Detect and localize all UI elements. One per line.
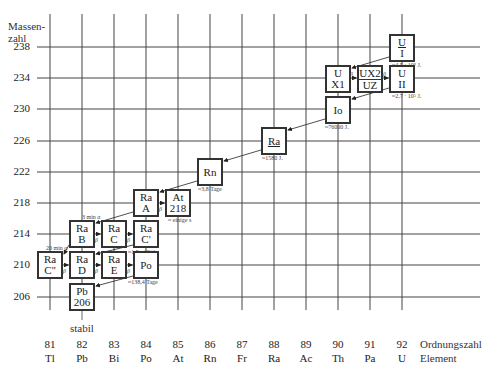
beta-symbol: β	[63, 268, 66, 274]
nuclide-uranium-x1: UX1	[325, 65, 351, 93]
beta-symbol: β	[159, 206, 162, 212]
nuclide-lead-206: Pb206	[69, 283, 95, 311]
y-tick: 234	[0, 71, 30, 83]
x-tick: 86Rn	[198, 337, 222, 365]
nuclide-radium-c-prime: RaC'	[133, 220, 159, 248]
y-tick: 230	[0, 102, 30, 114]
x-tick: 91Pa	[358, 337, 382, 365]
beta-symbol: β	[127, 268, 130, 274]
nuclide-radium-c: RaC	[101, 220, 127, 248]
x-tick: 88Ra	[262, 337, 286, 365]
nuclide-ionium: Io	[325, 96, 351, 124]
beta-symbol: β	[95, 268, 98, 274]
nuclide-astatine-218: At218	[165, 189, 191, 217]
y-tick: 214	[0, 227, 30, 239]
beta-symbol: β	[95, 237, 98, 243]
x-tick: 81Tl	[38, 337, 62, 365]
nuclide-polonium: Po	[133, 251, 159, 279]
half-life-label: ≈ einige s	[168, 217, 191, 223]
x-tick: 85At	[166, 337, 190, 365]
nuclide-uranium-ii: UII	[389, 65, 415, 93]
y-tick: 206	[0, 290, 30, 302]
nuclide-radium-e: RaE	[101, 251, 127, 279]
y-tick: 210	[0, 258, 30, 270]
y-axis-title-1: Massen-	[8, 20, 45, 32]
x-tick: 82Pb	[70, 337, 94, 365]
beta-symbol: β	[350, 71, 353, 77]
x-tick: 84Po	[134, 337, 158, 365]
beta-symbol: β	[127, 237, 130, 243]
x-tick: 89Ac	[294, 337, 318, 365]
y-tick: 226	[0, 134, 30, 146]
nuclide-radium: Ra	[261, 127, 287, 155]
y-tick: 238	[0, 40, 30, 52]
nuclide-radium-b: RaB	[69, 220, 95, 248]
beta-symbol: β	[383, 71, 386, 77]
half-life-label: ≈1580 J.	[262, 155, 283, 161]
x-axis-title-2: Element	[420, 352, 457, 364]
y-tick: 218	[0, 196, 30, 208]
x-tick: 87Fr	[230, 337, 254, 365]
y-tick: 222	[0, 165, 30, 177]
stable-label: stabil	[70, 322, 94, 334]
half-life-label: ≈2,7 · 10⁵ J.	[392, 93, 421, 99]
nuclide-radium-d: RaD	[69, 251, 95, 279]
x-tick: 90Th	[326, 337, 350, 365]
half-life-label: ≈3,8 Tage	[198, 186, 222, 192]
half-life-label: ≈138,4 Tage	[128, 279, 158, 285]
nuclide-uranium-i: UI	[389, 34, 415, 62]
nuclide-uranium-x2: UX2UZ	[357, 65, 383, 93]
x-axis-title: Ordnungszahl	[420, 338, 482, 350]
half-life-label: ≈76000 J.	[325, 124, 349, 130]
nuclide-radium-a: RaA	[133, 189, 159, 217]
x-tick: 92U	[390, 337, 414, 365]
grid-lines	[0, 0, 496, 371]
x-tick: 83Bi	[102, 337, 126, 365]
nuclide-radium-c-double-prime: RaC''	[37, 251, 63, 279]
nuclide-radon: Rn	[197, 158, 223, 186]
